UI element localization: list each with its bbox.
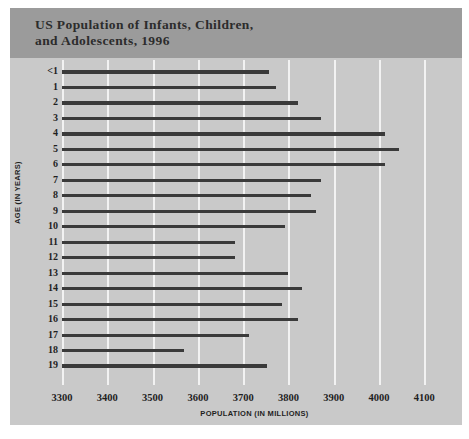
bar-age-12 bbox=[62, 256, 235, 259]
chart-figure: US Population of Infants, Children, and … bbox=[0, 0, 469, 439]
y-tick-label-19: 19 bbox=[12, 360, 58, 370]
x-tick-label-3500: 3500 bbox=[129, 392, 177, 403]
bar-age-16 bbox=[62, 318, 298, 321]
bar-row bbox=[62, 236, 447, 251]
bar-age-7 bbox=[62, 179, 321, 182]
y-tick-label-14: 14 bbox=[12, 283, 58, 293]
bar-row bbox=[62, 205, 447, 220]
x-tick-label-4000: 4000 bbox=[355, 392, 403, 403]
bar-row bbox=[62, 329, 447, 344]
x-axis-title: POPULATION (IN MILLIONS) bbox=[62, 409, 447, 418]
bar-age-2 bbox=[62, 101, 298, 104]
bar-row bbox=[62, 112, 447, 127]
y-tick-label-12: 12 bbox=[12, 252, 58, 262]
y-tick-label-2: 2 bbox=[12, 97, 58, 107]
bar-row bbox=[62, 143, 447, 158]
bar-age-18 bbox=[62, 349, 184, 352]
y-tick-label-3: 3 bbox=[12, 113, 58, 123]
bar-row bbox=[62, 282, 447, 297]
bar-age-5 bbox=[62, 148, 399, 151]
x-tick-label-3800: 3800 bbox=[264, 392, 312, 403]
bar-age-6 bbox=[62, 163, 385, 166]
y-tick-label-17: 17 bbox=[12, 330, 58, 340]
y-tick-label-18: 18 bbox=[12, 345, 58, 355]
bar-row bbox=[62, 359, 447, 374]
title-band: US Population of Infants, Children, and … bbox=[10, 8, 462, 58]
bar-row bbox=[62, 158, 447, 173]
bar-age-4 bbox=[62, 132, 385, 135]
x-tick-label-4100: 4100 bbox=[400, 392, 448, 403]
bar-age-15 bbox=[62, 303, 282, 306]
x-tick-label-3900: 3900 bbox=[310, 392, 358, 403]
bar-row bbox=[62, 344, 447, 359]
bar-age-1 bbox=[62, 86, 276, 89]
bar-age-<1 bbox=[62, 70, 269, 73]
bar-row bbox=[62, 298, 447, 313]
x-tick-label-3300: 3300 bbox=[38, 392, 86, 403]
bar-row bbox=[62, 313, 447, 328]
bar-age-10 bbox=[62, 225, 285, 228]
x-axis-tick-labels: 330034003500360037003800390040004100 bbox=[62, 392, 452, 406]
bar-row bbox=[62, 65, 447, 80]
x-tick-label-3600: 3600 bbox=[174, 392, 222, 403]
bar-age-11 bbox=[62, 241, 235, 244]
y-tick-label-1: 1 bbox=[12, 82, 58, 92]
plot-area bbox=[62, 60, 447, 385]
y-tick-label-<1: <1 bbox=[12, 66, 58, 76]
bar-row bbox=[62, 127, 447, 142]
y-tick-label-13: 13 bbox=[12, 268, 58, 278]
chart-title: US Population of Infants, Children, and … bbox=[35, 17, 435, 49]
bar-age-9 bbox=[62, 210, 316, 213]
bar-age-3 bbox=[62, 117, 321, 120]
bar-row bbox=[62, 81, 447, 96]
y-tick-label-16: 16 bbox=[12, 314, 58, 324]
bar-row bbox=[62, 220, 447, 235]
bar-row bbox=[62, 174, 447, 189]
bar-row bbox=[62, 189, 447, 204]
x-tick-label-3400: 3400 bbox=[83, 392, 131, 403]
y-tick-label-15: 15 bbox=[12, 299, 58, 309]
bar-row bbox=[62, 251, 447, 266]
x-tick-label-3700: 3700 bbox=[219, 392, 267, 403]
y-axis-title: AGE (IN YEARS) bbox=[13, 133, 22, 253]
bar-age-8 bbox=[62, 194, 311, 197]
bar-age-17 bbox=[62, 334, 249, 337]
bar-age-14 bbox=[62, 287, 302, 290]
bar-age-13 bbox=[62, 272, 288, 275]
bar-row bbox=[62, 267, 447, 282]
bar-row bbox=[62, 96, 447, 111]
bar-age-19 bbox=[62, 364, 267, 367]
